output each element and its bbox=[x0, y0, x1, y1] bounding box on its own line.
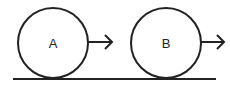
arrow-right-icon bbox=[201, 35, 224, 49]
wheel-a: A bbox=[18, 8, 112, 78]
wheel-b: B bbox=[131, 8, 224, 78]
arrow-right-icon bbox=[88, 35, 112, 49]
diagram-canvas: A B bbox=[0, 0, 230, 85]
wheel-a-label: A bbox=[49, 36, 58, 51]
wheel-b-label: B bbox=[162, 36, 171, 51]
